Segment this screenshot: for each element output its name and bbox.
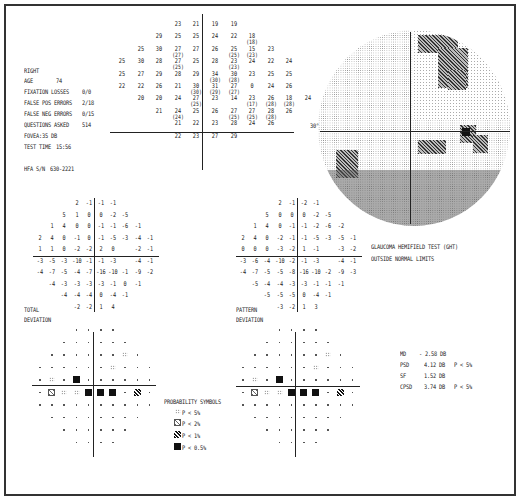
normal-point-icon [112, 342, 114, 344]
normal-point-icon [279, 417, 281, 419]
normal-point-icon [112, 329, 114, 331]
total-deviation-value: -1 [95, 235, 108, 241]
defect-patch [418, 140, 446, 154]
threshold-value: 14 [227, 95, 240, 101]
normal-point-icon [279, 404, 281, 406]
normal-point-icon [266, 404, 268, 406]
total-deviation-value: -4 [34, 269, 47, 275]
total-deviation-value: -3 [119, 235, 132, 241]
pattern-deviation-value: -5 [261, 269, 274, 275]
sf-label: SF [400, 372, 406, 379]
normal-point-icon [76, 404, 78, 406]
total-deviation-value: -1 [119, 269, 132, 275]
total-deviation-value: -2 [143, 269, 156, 275]
p5-symbol-icon [74, 390, 80, 395]
normal-point-icon [149, 392, 151, 394]
normal-point-icon [279, 329, 281, 331]
threshold-value: 29 [153, 33, 166, 39]
normal-point-icon [254, 417, 256, 419]
psd-p: P < 5% [454, 361, 472, 368]
normal-point-icon [76, 417, 78, 419]
threshold-value: 31(29) [209, 83, 222, 95]
pattern-deviation-value: -4 [237, 269, 250, 275]
pattern-deviation-value: -1 [310, 246, 323, 252]
pattern-deviation-value: -3 [298, 281, 311, 287]
normal-point-icon [124, 379, 126, 381]
threshold-vertical-axis [202, 14, 203, 170]
normal-point-icon [39, 379, 41, 381]
normal-point-icon [100, 354, 102, 356]
total-deviation-value: -1 [119, 292, 132, 298]
total-deviation-value: -1 [95, 200, 108, 206]
pattern-deviation-value: -10 [273, 258, 286, 264]
serial-label: HFA S/N [24, 165, 45, 172]
pattern-deviation-label-2: DEVIATION [236, 316, 263, 323]
pattern-deviation-value: -3 [346, 269, 359, 275]
threshold-value: 23(17) [246, 95, 259, 107]
pattern-deviation-value: -5 [273, 269, 286, 275]
pattern-deviation-value: -1 [346, 258, 359, 264]
p05-symbol-icon [97, 389, 104, 396]
ght-title: GLAUCOMA HEMIFIELD TEST (GHT) [371, 243, 458, 250]
pd-prob-vertical-axis [295, 332, 296, 457]
threshold-value: 27 [209, 133, 222, 139]
threshold-value: 30 [134, 58, 147, 64]
total-deviation-value: -2 [131, 246, 144, 252]
total-deviation-value: 0 [70, 223, 83, 229]
threshold-value: 25 [116, 71, 129, 77]
p05-symbol-icon [276, 376, 283, 383]
normal-point-icon [63, 379, 65, 381]
total-deviation-value: 2 [95, 246, 108, 252]
black-square-symbol-icon [174, 443, 181, 450]
total-deviation-value: -16 [95, 269, 108, 275]
threshold-value: 27(27) [227, 83, 240, 95]
dots-symbol-icon [175, 409, 181, 414]
threshold-value: 19 [227, 21, 240, 27]
threshold-value: 25 [190, 33, 203, 39]
threshold-value: 22 [190, 120, 203, 126]
threshold-value: 24 [171, 95, 184, 101]
total-deviation-value: -2 [70, 304, 83, 310]
normal-point-icon [291, 404, 293, 406]
pattern-deviation-value: -1 [334, 281, 347, 287]
threshold-value: 26 [209, 108, 222, 114]
false-neg-value: 0/15 [82, 110, 94, 117]
normal-point-icon [279, 429, 281, 431]
normal-point-icon [315, 442, 317, 444]
normal-point-icon [149, 379, 151, 381]
normal-point-icon [137, 354, 139, 356]
p2-symbol-icon [48, 389, 55, 396]
total-deviation-value: -3 [107, 258, 120, 264]
p05-symbol-icon [109, 389, 116, 396]
pattern-deviation-value: -1 [298, 235, 311, 241]
pattern-deviation-value: -2 [298, 200, 311, 206]
pattern-deviation-value: -2 [346, 246, 359, 252]
pattern-deviation-value: -4 [273, 281, 286, 287]
p5-symbol-icon [110, 365, 116, 370]
threshold-value: 25 [190, 58, 203, 64]
normal-point-icon [291, 342, 293, 344]
normal-point-icon [340, 354, 342, 356]
total-deviation-value: 1 [95, 304, 108, 310]
normal-point-icon [315, 342, 317, 344]
sf-value: 1.52 DB [424, 372, 445, 379]
threshold-value: 23 [209, 95, 222, 101]
pattern-deviation-value: -1 [298, 223, 311, 229]
normal-point-icon [315, 329, 317, 331]
pattern-deviation-value: -5 [261, 292, 274, 298]
legend-title: PROBABILITY SYMBOLS [164, 398, 221, 405]
normal-point-icon [242, 392, 244, 394]
normal-point-icon [340, 379, 342, 381]
total-deviation-horizontal-axis [33, 256, 159, 257]
grayscale-map [318, 30, 510, 226]
threshold-value: 23 [264, 46, 277, 52]
pattern-deviation-value: -1 [310, 200, 323, 206]
p05-symbol-icon [85, 389, 92, 396]
pattern-deviation-value: 0 [237, 246, 250, 252]
p5-symbol-icon [277, 390, 283, 395]
threshold-value: 24 [246, 120, 259, 126]
threshold-value: 30(28) [227, 71, 240, 83]
total-deviation-value: -1 [143, 246, 156, 252]
normal-point-icon [137, 417, 139, 419]
threshold-value: 21 [171, 83, 184, 89]
